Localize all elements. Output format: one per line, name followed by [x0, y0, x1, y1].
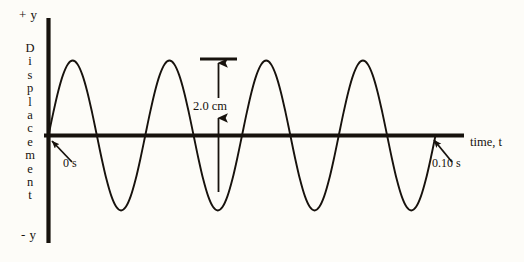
y-axis-title-letter: e — [27, 136, 33, 149]
y-axis-title-letter: p — [27, 82, 33, 95]
y-axis-title-letter: l — [28, 96, 31, 109]
y-axis-title-letter: m — [25, 149, 35, 162]
start-time-label: 0 s — [63, 157, 77, 169]
amplitude-label: 2.0 cm — [193, 100, 227, 113]
y-axis-title-letter: n — [27, 176, 33, 189]
graph-canvas — [0, 0, 524, 262]
y-axis-title-letter: a — [27, 109, 33, 122]
y-axis-title-letter: c — [27, 122, 33, 135]
y-axis-title-letter: D — [25, 42, 34, 55]
y-axis-title-letter: s — [28, 69, 33, 82]
negative-y-label: - y — [21, 228, 37, 241]
y-axis-title-letter: e — [27, 163, 33, 176]
y-axis-title-letter: t — [28, 189, 31, 202]
y-axis-title-letter: i — [28, 55, 31, 68]
displacement-time-graph: + y Displacement - y time, t 0 s 0.10 s … — [0, 0, 524, 262]
positive-y-label: + y — [19, 8, 38, 21]
end-time-label: 0.10 s — [432, 157, 461, 169]
y-axis-title: Displacement — [22, 42, 38, 203]
x-axis-title: time, t — [470, 136, 502, 149]
